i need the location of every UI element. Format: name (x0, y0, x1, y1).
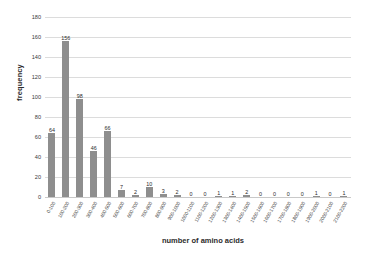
y-axis-tick-label: 40 (35, 154, 41, 160)
plot-area: 020406080100120140160180 641569846667210… (45, 17, 351, 197)
bar (146, 187, 153, 197)
bar-value-label: 2 (245, 189, 248, 195)
bar-column: 0 (281, 17, 295, 197)
bar-value-label: 64 (49, 127, 55, 133)
x-axis-tick-label: 200-300 (71, 201, 84, 219)
bar-column: 2 (128, 17, 142, 197)
y-axis-tick-label: 80 (35, 114, 41, 120)
bar (340, 196, 347, 197)
bar-value-label: 66 (105, 125, 111, 131)
bar-column: 2 (240, 17, 254, 197)
bar-column: 66 (101, 17, 115, 197)
bar-value-label: 0 (301, 191, 304, 197)
bar-value-label: 0 (190, 191, 193, 197)
bar-value-label: 98 (77, 93, 83, 99)
bar-column: 156 (59, 17, 73, 197)
y-axis-tick-label: 20 (35, 174, 41, 180)
x-tick-slot: 2100-2200 (337, 199, 351, 233)
bar-column: 0 (268, 17, 282, 197)
bar-value-label: 1 (217, 190, 220, 196)
bar-column: 1 (309, 17, 323, 197)
bar-value-label: 1 (231, 190, 234, 196)
y-axis-tick-label: 160 (32, 34, 41, 40)
x-axis-tick-label: 800-900 (154, 201, 167, 219)
x-axis-tick-label: 600-700 (127, 201, 140, 219)
bar (118, 190, 125, 197)
y-axis-tick-label: 140 (32, 54, 41, 60)
bar (48, 133, 55, 197)
bar (62, 41, 69, 197)
bar-value-label: 156 (61, 35, 70, 41)
bar-column: 10 (142, 17, 156, 197)
x-axis-tick-label: 400-500 (99, 201, 112, 219)
bar-value-label: 0 (203, 191, 206, 197)
bar-value-label: 0 (273, 191, 276, 197)
bar (104, 131, 111, 197)
bar-value-label: 10 (146, 181, 152, 187)
bar-column: 0 (295, 17, 309, 197)
histogram-chart: frequency 020406080100120140160180 64156… (0, 0, 372, 260)
y-axis-tick-label: 0 (38, 194, 41, 200)
bar-column: 0 (198, 17, 212, 197)
bar-column: 1 (337, 17, 351, 197)
y-axis-title: frequency (15, 33, 24, 133)
y-axis-tick-label: 180 (32, 14, 41, 20)
bar-column: 0 (254, 17, 268, 197)
bar-column: 46 (87, 17, 101, 197)
bar (76, 99, 83, 197)
x-axis-tick-label: 700-800 (140, 201, 153, 219)
bar (313, 196, 320, 197)
bar-value-label: 7 (120, 184, 123, 190)
y-axis-tick-label: 100 (32, 94, 41, 100)
x-axis-tick-label: 100-200 (57, 201, 70, 219)
y-axis-tick-label: 60 (35, 134, 41, 140)
x-axis-tick-label: 0-100 (46, 201, 56, 214)
bar-value-label: 3 (162, 188, 165, 194)
bar (215, 196, 222, 197)
bar-column: 1 (212, 17, 226, 197)
bar-value-label: 2 (134, 189, 137, 195)
bar-value-label: 0 (287, 191, 290, 197)
bar (174, 195, 181, 197)
bar-column: 7 (115, 17, 129, 197)
bar-column: 98 (73, 17, 87, 197)
bar (243, 195, 250, 197)
bar-column: 1 (226, 17, 240, 197)
bar-value-label: 1 (315, 190, 318, 196)
x-axis-tick-label: 300-400 (85, 201, 98, 219)
bar (229, 196, 236, 197)
bar-series: 64156984666721032001120000101 (45, 17, 351, 197)
bar-value-label: 0 (259, 191, 262, 197)
bar-column: 0 (323, 17, 337, 197)
bar (90, 151, 97, 197)
bar-value-label: 1 (342, 190, 345, 196)
bar-value-label: 2 (176, 189, 179, 195)
bar-value-label: 0 (329, 191, 332, 197)
bar-column: 2 (170, 17, 184, 197)
bar (160, 194, 167, 197)
x-axis-tick-label: 500-600 (113, 201, 126, 219)
bar-column: 64 (45, 17, 59, 197)
bar (132, 195, 139, 197)
bar-column: 3 (156, 17, 170, 197)
x-axis-title: number of amino acids (0, 236, 372, 245)
y-axis-tick-label: 120 (32, 74, 41, 80)
gridline: 0 (45, 197, 351, 198)
x-axis-tick-labels: 0-100100-200200-300300-400400-500500-600… (45, 199, 351, 233)
bar-column: 0 (184, 17, 198, 197)
bar-value-label: 46 (91, 145, 97, 151)
